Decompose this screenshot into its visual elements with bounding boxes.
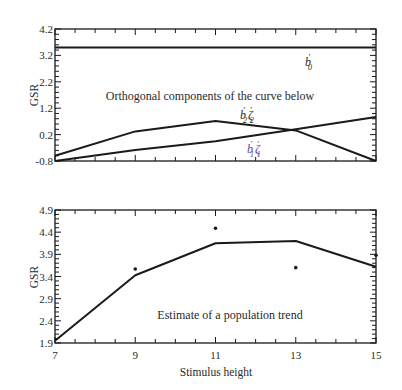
y-tick-label: 2.4 <box>39 315 53 327</box>
top-y-axis-title: GSR <box>28 83 40 106</box>
top-panel: 4.23.22.21.20.2-0.8 GSR Orthogonal compo… <box>28 23 376 167</box>
top-annotation: Orthogonal components of the curve below <box>106 89 315 103</box>
legend-label-b0: b′0 <box>305 52 312 72</box>
data-point <box>133 267 137 271</box>
chart-svg: 4.23.22.21.20.2-0.8 GSR Orthogonal compo… <box>0 0 402 390</box>
b2-zeta2-label: b′2ζ′2 <box>240 105 254 125</box>
legend-label-b2-zeta2: b′2ζ′2 <box>240 105 254 125</box>
bottom-y-tick-labels: 4.94.43.93.42.92.41.9 <box>39 204 53 349</box>
y-tick-label: 3.2 <box>39 49 53 61</box>
y-tick-label: 4.4 <box>39 226 53 238</box>
y-tick-label: 3.4 <box>39 271 53 283</box>
x-tick-label: 9 <box>133 349 139 361</box>
legend-label-b1-zeta1: b′1ζ′1 <box>247 139 261 159</box>
data-point <box>294 266 298 270</box>
x-tick-label: 11 <box>210 349 221 361</box>
b1-zeta1-label: b′1ζ′1 <box>247 139 261 159</box>
y-tick-label: 1.2 <box>39 102 53 114</box>
y-tick-label: 0.2 <box>39 129 53 141</box>
x-tick-label: 7 <box>52 349 58 361</box>
y-tick-label: 4.9 <box>39 204 53 216</box>
y-tick-label: 4.2 <box>39 23 53 35</box>
y-tick-label: 3.9 <box>39 248 53 260</box>
top-series <box>55 48 376 162</box>
y-tick-label: 2.2 <box>39 76 53 88</box>
series-line <box>55 117 376 161</box>
x-tick-label: 15 <box>371 349 383 361</box>
y-tick-label: 2.9 <box>39 293 53 305</box>
data-point <box>214 226 218 230</box>
figure: 4.23.22.21.20.2-0.8 GSR Orthogonal compo… <box>0 0 402 390</box>
b0-label: b′0 <box>305 52 312 72</box>
series-line <box>55 241 376 341</box>
x-tick-label: 13 <box>290 349 302 361</box>
x-axis-title: Stimulus height <box>180 366 253 379</box>
bottom-x-tick-labels: 79111315 <box>52 349 382 361</box>
bottom-y-axis-title: GSR <box>28 265 40 288</box>
y-tick-label: 1.9 <box>39 337 53 349</box>
bottom-panel: 4.94.43.93.42.92.41.9 79111315 GSR Estim… <box>28 204 382 379</box>
bottom-series <box>55 226 378 340</box>
y-tick-label: -0.8 <box>36 155 54 167</box>
bottom-annotation: Estimate of a population trend <box>157 308 302 322</box>
